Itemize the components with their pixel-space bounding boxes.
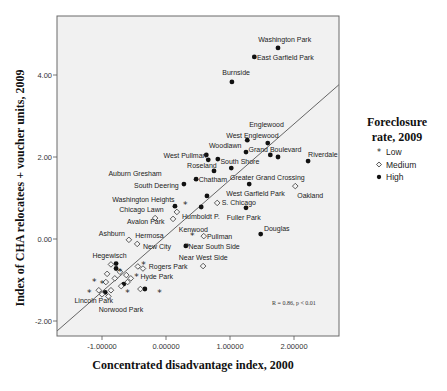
x-tick-label: 0.00000 [152,342,179,351]
point-label: Norwood Park [99,306,144,313]
circle-marker-icon [173,204,178,209]
star-marker-icon: * [377,147,381,157]
point-label: Chicago Lawn [119,206,163,214]
circle-marker-icon [244,205,249,210]
data-point [247,182,252,187]
x-tick-label: 2.00000 [280,342,307,351]
point-label: Hyde Park [140,273,173,281]
point-label: Woodlawn [209,142,242,149]
scatter-chart: -1.000000.000001.000002.00000-2.000.002.… [0,0,447,391]
point-label: South Shore [220,158,259,165]
point-label: Chatham [199,176,228,183]
x-axis-title: Concentrated disadvantage index, 2000 [92,358,293,372]
point-label: Auburn Gresham [108,170,161,177]
point-label: Pullman [207,233,232,240]
point-label: West Englewood [226,132,279,140]
data-point: * [125,288,130,298]
point-label: Englewood [249,121,284,129]
point-label: Near South Side [188,243,239,250]
data-point [306,159,311,164]
correlation-annotation: R = 0.86, p < 0.01 [272,300,316,306]
point-label: Washington Park [258,36,312,44]
point-label: Rogers Park [149,263,188,271]
legend-item-low: *Low [377,147,402,157]
data-point: * [100,279,105,289]
star-marker-icon: * [100,279,105,289]
data-point [230,80,235,85]
data-point [229,166,234,171]
circle-marker-icon [205,194,210,199]
legend: Foreclosure rate, 2009 *LowMediumHigh [367,115,428,182]
y-tick-label: 2.00 [37,153,52,162]
y-tick-label: -2.00 [35,317,52,326]
point-label: Douglas [264,225,290,233]
data-point [276,46,281,51]
circle-marker-icon [182,182,187,187]
legend-label: Low [386,147,402,157]
data-point: * [92,277,97,287]
star-marker-icon: * [183,200,188,210]
legend-title-line-2: rate, 2009 [372,130,423,144]
data-point [258,232,263,237]
point-label: Washington Heights [112,196,175,204]
star-marker-icon: * [141,260,146,270]
circle-marker-icon [265,141,270,146]
circle-marker-icon [114,261,119,266]
data-point [173,204,178,209]
point-label: Kenwood [179,226,208,233]
star-marker-icon: * [134,272,139,282]
point-label: East Garfield Park [257,54,314,61]
point-label: West Pullman [163,152,206,159]
y-axis-title: Index of CHA relocatees + voucher units,… [13,69,27,306]
point-label: Greater Grand Crossing [230,174,305,182]
circle-marker-icon [377,175,381,179]
circle-marker-icon [306,159,311,164]
x-tick-label: 1.00000 [216,342,243,351]
point-label: New City [143,243,172,251]
legend-title-line-1: Foreclosure [367,115,428,129]
star-marker-icon: * [157,288,162,298]
circle-marker-icon [229,166,234,171]
point-label: Avalon Park [127,218,165,225]
data-point [114,261,119,266]
x-tick-label: -1.00000 [87,342,117,351]
diamond-marker-icon [376,162,381,167]
point-label: S. Chicago [222,199,256,207]
point-label: Ashburn [99,230,125,237]
data-point [276,155,281,160]
point-label: Humboldt P. [182,213,220,220]
point-label: Lincoln Park [74,297,113,304]
point-label: Hermosa [135,232,164,239]
legend-item-high: High [377,172,404,182]
point-label: Near West Side [179,254,228,261]
legend-item-medium: Medium [376,160,416,170]
circle-marker-icon [230,80,235,85]
star-marker-icon: * [118,267,123,277]
data-point [244,205,249,210]
point-label: Grand Boulevard [249,146,302,153]
data-point: * [141,260,146,270]
point-label: West Garfield Park [226,190,285,197]
circle-marker-icon [276,46,281,51]
point-label: Riverdale [308,151,338,158]
circle-marker-icon [199,205,204,210]
data-point [265,141,270,146]
data-point: * [118,267,123,277]
y-tick-label: 0.00 [37,235,52,244]
circle-marker-icon [247,182,252,187]
point-label: Hegewisch [92,252,126,260]
point-label: Roseland [187,162,217,169]
point-label: Oakland [297,192,323,199]
y-tick-label: 4.00 [37,71,52,80]
legend-label: Medium [386,160,416,170]
data-point [182,182,187,187]
circle-marker-icon [258,232,263,237]
data-point: * [157,288,162,298]
circle-marker-icon [276,155,281,160]
data-point [199,205,204,210]
star-marker-icon: * [92,277,97,287]
legend-label: High [386,172,404,182]
data-point: * [134,272,139,282]
star-marker-icon: * [125,288,130,298]
point-label: Burnside [222,69,250,76]
